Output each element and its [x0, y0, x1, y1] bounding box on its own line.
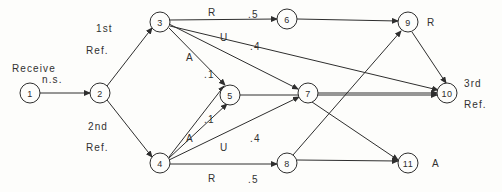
node-side-label-lbl-r-node9: R: [427, 16, 435, 29]
edge-label-lbl-1-bot: .1: [204, 113, 215, 126]
edge-label-lbl-4-bot: .4: [250, 132, 261, 145]
edge-label-lbl-r-bot: R: [208, 172, 216, 185]
graph-edge: [169, 28, 225, 85]
node-label: 7: [305, 89, 311, 99]
graph-node-4[interactable]: 4: [150, 153, 170, 173]
node-label: 1: [27, 89, 33, 99]
edge-label-lbl-r-top: R: [208, 6, 216, 19]
node-label: 2: [97, 89, 103, 99]
node-label: 11: [403, 159, 413, 169]
node-side-label-lbl-a-node11: A: [432, 157, 440, 170]
edge-label-lbl-1-top: .1: [204, 68, 215, 81]
edge-label-lbl-u-top: U: [220, 31, 228, 44]
graph-node-7[interactable]: 7: [298, 83, 318, 103]
node-label: 4: [157, 159, 163, 169]
graph-node-11[interactable]: 11: [398, 153, 418, 173]
graph-edge: [412, 32, 446, 83]
node-label: 6: [284, 15, 290, 25]
edge-label-lbl-ref2: Ref.: [86, 141, 109, 154]
node-label: 3: [157, 18, 163, 28]
node-label: 10: [441, 89, 452, 99]
graph-node-1[interactable]: 1: [20, 83, 40, 103]
edge-label-lbl-ref1: Ref.: [86, 44, 109, 57]
node-label: 8: [284, 159, 290, 169]
edge-label-lbl-5-bot: .5: [248, 173, 259, 186]
graph-node-2[interactable]: 2: [90, 83, 110, 103]
graph-node-10[interactable]: 10: [437, 83, 457, 103]
node-label: 5: [227, 91, 233, 101]
edge-label-lbl-5-top: .5: [248, 8, 259, 21]
graph-edge: [107, 100, 152, 157]
diagram-canvas: 1234567891011 Receiven.s.1stRef.2ndRef.R…: [0, 0, 502, 192]
graph-node-5[interactable]: 5: [220, 85, 240, 105]
edge-label-lbl-1st: 1st: [96, 22, 113, 35]
node-label: 9: [405, 18, 411, 28]
node-side-label-lbl-ref3: Ref.: [464, 98, 487, 111]
graph-edge: [169, 19, 277, 20]
graph-node-6[interactable]: 6: [277, 9, 297, 29]
graph-edge: [169, 104, 227, 158]
edge-label-lbl-4-top: .4: [250, 40, 261, 53]
edge-label-lbl-u-bot: U: [220, 141, 228, 154]
edge-label-lbl-2nd: 2nd: [88, 120, 108, 133]
edge-label-lbl-ns: n.s.: [42, 73, 63, 86]
graph-node-8[interactable]: 8: [277, 153, 297, 173]
graph-edge: [297, 19, 398, 21]
graph-node-9[interactable]: 9: [398, 12, 418, 32]
edge-label-lbl-a-bot: A: [186, 132, 194, 145]
graph-node-3[interactable]: 3: [150, 12, 170, 32]
graph-edge: [169, 97, 299, 160]
graph-edge: [312, 102, 398, 160]
node-side-label-lbl-3rd: 3rd: [464, 77, 482, 90]
graph-edge: [297, 160, 398, 161]
graph-edge: [107, 28, 152, 86]
edge-label-lbl-a-top: A: [186, 51, 194, 64]
